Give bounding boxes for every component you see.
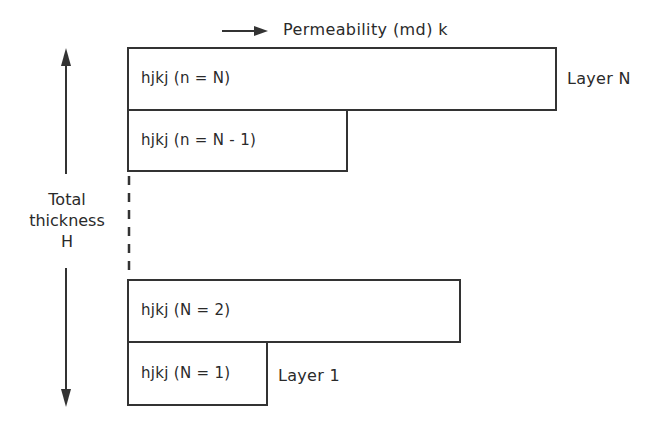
thickness-label-line-3: H — [27, 231, 107, 252]
layer-n-side-label: Layer N — [567, 69, 631, 88]
layer-n-label: hjkj (n = N) — [141, 69, 230, 87]
layer-n-minus-1-label: hjkj (n = N - 1) — [141, 131, 256, 149]
layer-1-box: hjkj (N = 1) — [127, 341, 268, 406]
thickness-label-line-2: thickness — [27, 210, 107, 231]
total-thickness-label: Total thickness H — [27, 189, 107, 252]
layer-2-label: hjkj (N = 2) — [141, 301, 230, 319]
layer-n-box: hjkj (n = N) — [127, 47, 557, 111]
layer-n-minus-1-box: hjkj (n = N - 1) — [127, 109, 348, 172]
layer-1-side-label: Layer 1 — [278, 366, 340, 385]
permeability-axis-title: Permeability (md) k — [283, 20, 448, 39]
permeability-arrow-icon — [222, 26, 268, 36]
layer-2-box: hjkj (N = 2) — [127, 279, 461, 343]
layer-1-label: hjkj (N = 1) — [141, 364, 230, 382]
thickness-label-line-1: Total — [27, 189, 107, 210]
